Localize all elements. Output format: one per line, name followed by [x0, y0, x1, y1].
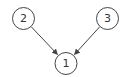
node-1[interactable]: 1: [55, 53, 77, 75]
node-3-label: 3: [104, 12, 111, 25]
node-2[interactable]: 2: [13, 8, 35, 30]
edge-3-to-1: [74, 27, 99, 55]
node-1-label: 1: [63, 57, 70, 70]
node-2-label: 2: [20, 12, 27, 25]
edge-2-to-1: [31, 27, 57, 55]
graph-canvas: 2 3 1: [0, 0, 128, 77]
node-3[interactable]: 3: [97, 8, 119, 30]
